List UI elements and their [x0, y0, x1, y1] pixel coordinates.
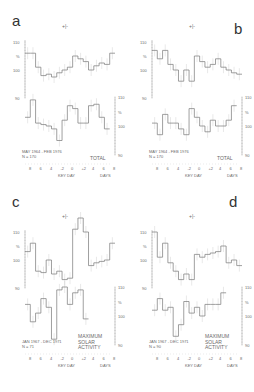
x-tick: 6: [40, 166, 43, 171]
x-tick: 4: [177, 356, 180, 361]
figure-canvas: a110%10090110%10090+|-864-20+2468KEY DAY…: [0, 0, 254, 392]
x-tick: +2: [209, 166, 214, 171]
n-label: N = 71: [22, 344, 35, 349]
x-label-keyday: KEY DAY: [58, 173, 75, 178]
x-tick: 4: [92, 356, 95, 361]
y-tick-90: 90: [142, 286, 147, 291]
x-tick: 6: [230, 356, 233, 361]
n-label: N = 90: [149, 344, 162, 349]
y-tick-100: 100: [13, 68, 20, 73]
y-tick-110-right: 110: [118, 95, 125, 100]
panel-letter: b: [234, 20, 242, 37]
x-tick: +2: [209, 356, 214, 361]
x-tick: 6: [167, 356, 170, 361]
x-unit-days: DAYS: [227, 363, 238, 368]
x-tick: -2: [188, 356, 192, 361]
lower-series: [152, 106, 237, 135]
y-unit-right: %: [245, 300, 249, 305]
y-tick-100: 100: [140, 258, 147, 263]
n-label: N = 170: [149, 154, 164, 159]
error-marker: +|-: [189, 23, 195, 29]
y-tick-110: 110: [140, 40, 147, 45]
y-tick-90: 90: [15, 96, 20, 101]
lower-series: [25, 287, 89, 339]
x-tick: 8: [113, 356, 116, 361]
x-tick: 8: [29, 166, 32, 171]
x-tick: 4: [50, 356, 53, 361]
x-tick: 8: [29, 356, 32, 361]
error-marker: +|-: [189, 213, 195, 219]
x-tick: -2: [61, 166, 65, 171]
y-tick-90-right: 90: [245, 343, 250, 348]
x-tick: 4: [219, 166, 222, 171]
x-tick: 8: [240, 166, 243, 171]
x-tick: +2: [82, 166, 87, 171]
x-tick: +2: [82, 356, 87, 361]
y-tick-90-right: 90: [118, 343, 123, 348]
x-tick: 6: [230, 166, 233, 171]
y-tick-110-right: 110: [245, 95, 252, 100]
panel-letter: d: [229, 193, 237, 210]
panel-letter: a: [12, 12, 21, 29]
lower-series: [25, 100, 110, 141]
panel-a: a110%10090110%10090+|-864-20+2468KEY DAY…: [12, 12, 125, 178]
y-tick-90-right: 90: [245, 153, 250, 158]
x-tick: 0: [71, 166, 74, 171]
y-tick-100: 100: [13, 258, 20, 263]
panel-title: TOTAL: [217, 155, 233, 161]
y-tick-110-right: 110: [245, 285, 252, 290]
upper-series: [25, 218, 115, 280]
x-tick: 6: [103, 166, 106, 171]
x-tick: 0: [71, 356, 74, 361]
y-tick-100-right: 100: [118, 314, 125, 319]
y-tick-100-right: 100: [245, 314, 252, 319]
x-unit-days: DAYS: [100, 173, 111, 178]
x-tick: 8: [240, 356, 243, 361]
x-unit-days: DAYS: [227, 173, 238, 178]
error-marker: +|-: [62, 213, 68, 219]
y-tick-90: 90: [15, 286, 20, 291]
y-tick-110: 110: [13, 230, 20, 235]
n-label: N = 170: [22, 154, 37, 159]
y-unit: %: [143, 244, 147, 249]
panel-title: TOTAL: [90, 155, 106, 161]
y-tick-90-right: 90: [118, 153, 123, 158]
x-tick: 6: [40, 356, 43, 361]
x-tick: 8: [156, 356, 159, 361]
x-label-keyday: KEY DAY: [185, 173, 202, 178]
y-unit: %: [16, 244, 20, 249]
panel-b: b110%10090110%10090+|-864-20+2468KEY DAY…: [140, 20, 252, 178]
x-tick: 6: [103, 356, 106, 361]
y-tick-110-right: 110: [118, 285, 125, 290]
y-tick-110: 110: [13, 40, 20, 45]
x-tick: 8: [156, 166, 159, 171]
panel-c: c110%10090110%10090+|-864-20+2468KEY DAY…: [12, 193, 125, 368]
panel-letter: c: [12, 193, 20, 210]
x-tick: 4: [177, 166, 180, 171]
y-tick-100-right: 100: [118, 124, 125, 129]
y-tick-90: 90: [142, 96, 147, 101]
x-unit-days: DAYS: [100, 363, 111, 368]
error-marker: +|-: [62, 23, 68, 29]
x-tick: 4: [50, 166, 53, 171]
x-tick: 4: [219, 356, 222, 361]
y-unit-right: %: [245, 110, 249, 115]
y-unit-right: %: [118, 300, 122, 305]
x-tick: 4: [92, 166, 95, 171]
y-unit: %: [143, 54, 147, 59]
panel-title-line: ACTIVITY: [78, 344, 101, 350]
x-tick: -2: [61, 356, 65, 361]
x-tick: -2: [188, 166, 192, 171]
panel-title-line: ACTIVITY: [205, 344, 228, 350]
y-tick-100-right: 100: [245, 124, 252, 129]
y-unit-right: %: [118, 110, 122, 115]
x-tick: 0: [198, 166, 201, 171]
y-tick-100: 100: [140, 68, 147, 73]
x-label-keyday: KEY DAY: [58, 363, 75, 368]
x-tick: 0: [198, 356, 201, 361]
y-unit: %: [16, 54, 20, 59]
y-tick-110: 110: [140, 230, 147, 235]
x-tick: 6: [167, 166, 170, 171]
x-label-keyday: KEY DAY: [185, 363, 202, 368]
lower-series: [152, 293, 226, 337]
